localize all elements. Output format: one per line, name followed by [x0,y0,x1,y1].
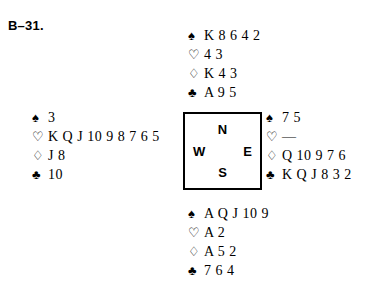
south-diamonds-ranks: A 5 2 [202,242,237,261]
heart-icon: ♡ [32,127,46,146]
south-clubs-row: ♣ 7 6 4 [188,261,269,280]
east-spades-ranks: 7 5 [280,108,301,127]
bridge-deal-diagram: B–31. ♠ K 8 6 4 2 ♡ 4 3 ♢ K 4 3 ♣ A 9 5 … [0,0,387,289]
east-hearts-row: ♡ — [266,127,352,146]
east-diamonds-ranks: Q 10 9 7 6 [280,146,346,165]
compass-south-label: S [218,166,227,179]
hand-south: ♠ A Q J 10 9 ♡ A 2 ♢ A 5 2 ♣ 7 6 4 [188,204,269,280]
west-diamonds-ranks: J 8 [46,146,65,165]
club-icon: ♣ [188,83,202,102]
west-spades-ranks: 3 [46,108,56,127]
heart-icon: ♡ [188,223,202,242]
south-hearts-row: ♡ A 2 [188,223,269,242]
south-clubs-ranks: 7 6 4 [202,261,235,280]
hand-east: ♠ 7 5 ♡ — ♢ Q 10 9 7 6 ♣ K Q J 8 3 2 [266,108,352,184]
west-clubs-ranks: 10 [46,165,63,184]
club-icon: ♣ [32,165,46,184]
spade-icon: ♠ [266,108,280,127]
north-hearts-ranks: 4 3 [202,45,223,64]
diamond-icon: ♢ [266,146,280,165]
west-clubs-row: ♣ 10 [32,165,160,184]
north-clubs-row: ♣ A 9 5 [188,83,261,102]
north-spades-row: ♠ K 8 6 4 2 [188,26,261,45]
compass-east-label: E [243,145,252,158]
north-diamonds-ranks: K 4 3 [202,64,238,83]
heart-icon: ♡ [188,45,202,64]
east-hearts-ranks: — [280,127,297,146]
east-spades-row: ♠ 7 5 [266,108,352,127]
diamond-icon: ♢ [188,64,202,83]
hand-north: ♠ K 8 6 4 2 ♡ 4 3 ♢ K 4 3 ♣ A 9 5 [188,26,261,102]
spade-icon: ♠ [188,26,202,45]
south-diamonds-row: ♢ A 5 2 [188,242,269,261]
west-hearts-row: ♡ K Q J 10 9 8 7 6 5 [32,127,160,146]
east-clubs-row: ♣ K Q J 8 3 2 [266,165,352,184]
north-clubs-ranks: A 9 5 [202,83,237,102]
diamond-icon: ♢ [32,146,46,165]
compass-box: N W E S [183,112,262,190]
north-hearts-row: ♡ 4 3 [188,45,261,64]
north-diamonds-row: ♢ K 4 3 [188,64,261,83]
compass-north-label: N [218,123,227,136]
south-spades-ranks: A Q J 10 9 [202,204,269,223]
south-hearts-ranks: A 2 [202,223,225,242]
spade-icon: ♠ [32,108,46,127]
diamond-icon: ♢ [188,242,202,261]
club-icon: ♣ [266,165,280,184]
west-diamonds-row: ♢ J 8 [32,146,160,165]
club-icon: ♣ [188,261,202,280]
north-spades-ranks: K 8 6 4 2 [202,26,261,45]
east-diamonds-row: ♢ Q 10 9 7 6 [266,146,352,165]
east-clubs-ranks: K Q J 8 3 2 [280,165,352,184]
compass-west-label: W [193,145,205,158]
heart-icon: ♡ [266,127,280,146]
board-label: B–31. [8,18,44,33]
hand-west: ♠ 3 ♡ K Q J 10 9 8 7 6 5 ♢ J 8 ♣ 10 [32,108,160,184]
spade-icon: ♠ [188,204,202,223]
west-spades-row: ♠ 3 [32,108,160,127]
west-hearts-ranks: K Q J 10 9 8 7 6 5 [46,127,160,146]
south-spades-row: ♠ A Q J 10 9 [188,204,269,223]
